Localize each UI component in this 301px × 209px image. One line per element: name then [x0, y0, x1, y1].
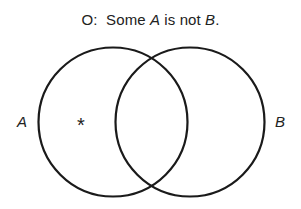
circle-a — [39, 48, 188, 197]
label-a: A — [17, 113, 27, 130]
asterisk-marker-icon: * — [77, 115, 85, 135]
circle-b — [116, 48, 265, 197]
label-b: B — [275, 113, 285, 130]
venn-diagram — [0, 0, 301, 209]
